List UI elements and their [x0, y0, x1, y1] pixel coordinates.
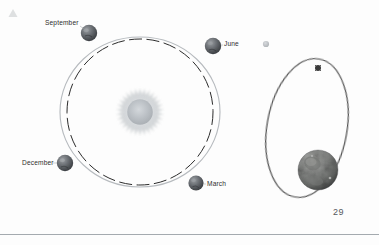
planet-december [57, 155, 73, 171]
page-canvas: September June December March 29 [0, 0, 379, 245]
label-december: December [22, 160, 54, 167]
label-march: March [207, 181, 226, 188]
planet-june [205, 38, 221, 54]
page-number: 29 [333, 208, 344, 217]
corner-mark-icon [9, 9, 18, 17]
planet-march [188, 175, 203, 190]
sun-core [127, 99, 153, 125]
distant-body-dot [263, 41, 269, 47]
moon-marker [315, 65, 321, 71]
sun-graphic [116, 88, 164, 136]
label-june: June [224, 41, 239, 48]
planet-september [81, 25, 97, 41]
earth-globe [298, 150, 338, 190]
label-september: September [45, 20, 79, 27]
orbit-diagram [0, 0, 379, 245]
